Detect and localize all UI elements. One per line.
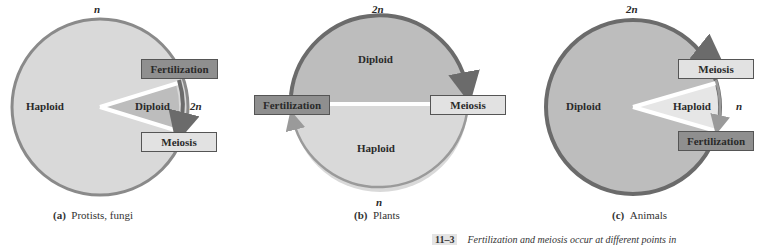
panel-c-top-ploidy: 2n (626, 3, 638, 15)
panel-b-lower-region-label: Haploid (357, 142, 395, 154)
panel-a-top-ploidy: n (94, 3, 100, 15)
panel-a-fertilization-box: Fertilization (141, 59, 218, 79)
panel-c-small-region-label: Haploid (673, 100, 711, 112)
figure-caption: 11–3Fertilization and meiosis occur at d… (432, 234, 676, 245)
panel-b-top-ploidy: 2n (372, 3, 384, 15)
panel-c-fertilization-box: Fertilization (678, 131, 754, 151)
panel-a-meiosis-box: Meiosis (141, 132, 217, 152)
panel-a-side-ploidy: 2n (190, 100, 202, 112)
panel-b-fertilization-box: Fertilization (254, 95, 330, 115)
figure-number: 11–3 (432, 234, 457, 245)
panel-c-side-ploidy: n (736, 100, 742, 112)
panel-b-caption: (b) Plants (354, 209, 400, 221)
panel-a-small-region-label: Diploid (135, 100, 170, 112)
panel-b-upper-region-label: Diploid (358, 53, 393, 65)
panel-c-caption: (c) Animals (612, 209, 667, 221)
panel-b-meiosis-box: Meiosis (430, 95, 506, 115)
panel-a-large-region-label: Haploid (26, 100, 64, 112)
figure-caption-text: Fertilization and meiosis occur at diffe… (467, 234, 676, 245)
panel-a-caption: (a) Protists, fungi (53, 209, 133, 221)
panel-c-large-region-label: Diploid (566, 100, 601, 112)
panel-b-bottom-ploidy: n (376, 196, 382, 208)
panel-c-meiosis-box: Meiosis (678, 59, 754, 79)
